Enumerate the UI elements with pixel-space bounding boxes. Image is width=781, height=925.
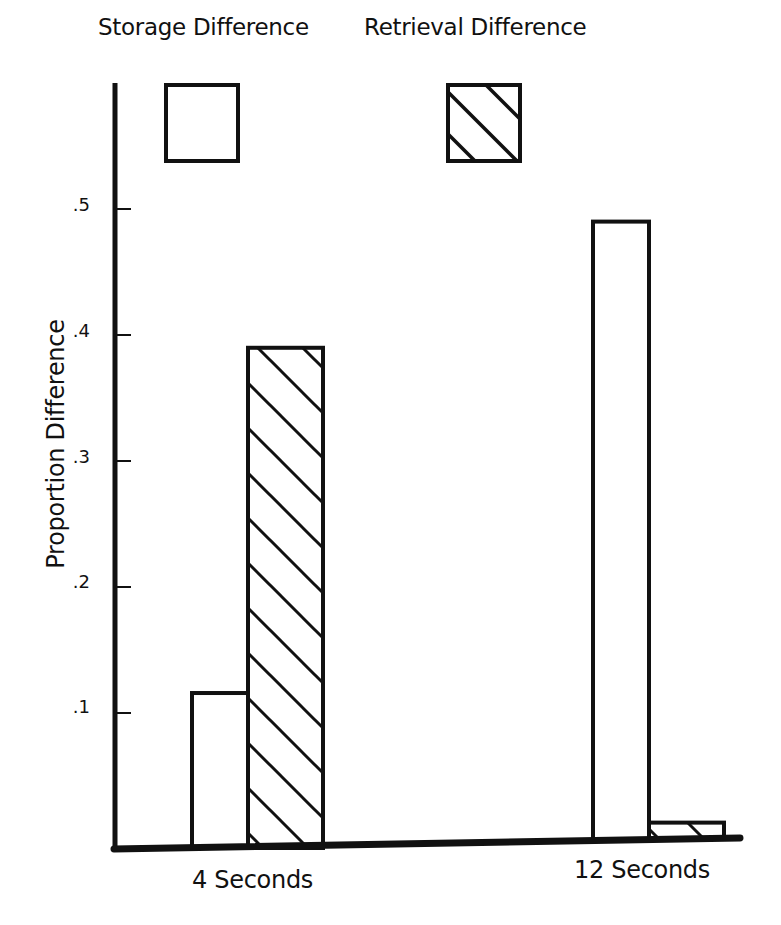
bar-storage-difference-4-seconds xyxy=(192,693,248,848)
x-label-12-seconds: 12 Seconds xyxy=(574,856,710,884)
bar-chart xyxy=(0,0,781,925)
y-tick-label: .2 xyxy=(60,571,90,592)
y-axis-title: Proportion Difference xyxy=(42,319,70,568)
legend-label-retrieval: Retrieval Difference xyxy=(364,14,586,40)
bars-group xyxy=(192,222,724,848)
bar-retrieval-difference-4-seconds xyxy=(248,348,323,848)
legend-swatch-storage xyxy=(166,85,238,161)
y-tick-label: .1 xyxy=(60,696,90,717)
legend-swatch-retrieval xyxy=(448,85,520,161)
legend-label-storage: Storage Difference xyxy=(98,14,309,40)
y-tick-label: .5 xyxy=(60,194,90,215)
bar-storage-difference-12-seconds xyxy=(593,222,649,839)
x-label-4-seconds: 4 Seconds xyxy=(192,866,313,894)
